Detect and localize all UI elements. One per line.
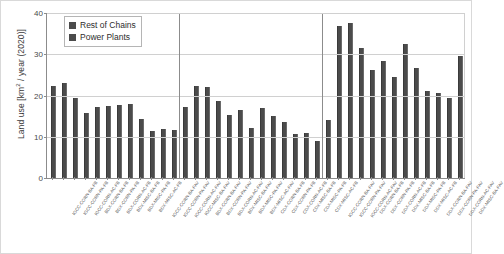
bar: [392, 77, 398, 178]
y-axis-tickmark: [44, 137, 47, 138]
x-axis-tick-labels: IGCC-CORN-BA-FBIGCC-CORN-PA-FBIGCC-CORN-…: [46, 180, 465, 254]
x-axis-tickmark: [151, 177, 152, 180]
x-axis-tickmark: [96, 177, 97, 180]
x-axis-tickmark: [437, 177, 438, 180]
bar: [216, 101, 222, 178]
bar: [370, 70, 376, 178]
chart-legend: Rest of ChainsPower Plants: [64, 16, 142, 47]
x-axis-tickmark: [217, 177, 218, 180]
x-axis-tickmark: [415, 177, 416, 180]
legend-label: Power Plants: [80, 33, 130, 42]
x-axis-tickmark: [228, 177, 229, 180]
bar: [51, 86, 57, 178]
x-axis-tickmark: [162, 177, 163, 180]
x-axis-tickmark: [327, 177, 328, 180]
y-axis-tick-labels: 010203040: [23, 13, 43, 179]
bar: [238, 110, 244, 178]
bar: [271, 116, 277, 178]
x-axis-tickmark: [272, 177, 273, 180]
bar: [414, 68, 420, 178]
x-axis-tickmark: [459, 177, 460, 180]
x-axis-tickmark: [283, 177, 284, 180]
y-axis-tick-label: 20: [23, 91, 43, 100]
legend-swatch-icon: [69, 22, 76, 29]
x-axis-tickmark: [239, 177, 240, 180]
bar: [260, 108, 266, 178]
legend-item: Rest of Chains: [69, 19, 136, 31]
x-axis-tickmark: [140, 177, 141, 180]
bar: [282, 122, 288, 179]
x-axis-tickmark: [63, 177, 64, 180]
bar: [95, 107, 101, 178]
x-axis-tickmark: [195, 177, 196, 180]
bar: [304, 133, 310, 178]
x-axis-tickmark: [74, 177, 75, 180]
bar: [326, 120, 332, 178]
bar: [73, 98, 79, 178]
legend-item: Power Plants: [69, 31, 136, 43]
bar: [425, 91, 431, 178]
bar: [139, 119, 145, 178]
x-axis-tickmark: [184, 177, 185, 180]
bar: [249, 128, 255, 178]
bar: [106, 106, 112, 178]
y-axis-tickmark: [44, 54, 47, 55]
x-axis-tickmark: [206, 177, 207, 180]
x-axis-tickmark: [305, 177, 306, 180]
x-axis-tickmark: [129, 177, 130, 180]
x-axis-tickmark: [173, 177, 174, 180]
bar: [84, 113, 90, 178]
group-separator: [322, 13, 323, 178]
x-axis-tickmark: [393, 177, 394, 180]
bar: [315, 141, 321, 178]
bar: [293, 134, 299, 178]
bar: [348, 23, 354, 178]
bar: [436, 93, 442, 178]
x-axis-tickmark: [52, 177, 53, 180]
x-axis-tickmark: [448, 177, 449, 180]
gridline: [47, 96, 465, 97]
y-axis-tickmark: [44, 178, 47, 179]
bar: [194, 86, 200, 178]
x-axis-tickmark: [382, 177, 383, 180]
bar: [117, 105, 123, 178]
x-axis-tickmark: [107, 177, 108, 180]
bar: [183, 107, 189, 178]
bar: [227, 115, 233, 178]
plot-top-border: [47, 13, 465, 14]
bar: [381, 61, 387, 178]
x-axis-tickmark: [250, 177, 251, 180]
plot-right-border: [464, 13, 465, 178]
x-axis-tickmark: [360, 177, 361, 180]
x-axis-tickmark: [338, 177, 339, 180]
x-axis-tickmark: [349, 177, 350, 180]
bar: [447, 98, 453, 178]
bar: [205, 87, 211, 178]
x-axis-tickmark: [118, 177, 119, 180]
bar: [62, 83, 68, 178]
bar: [403, 44, 409, 178]
y-axis-tickmark: [44, 96, 47, 97]
x-axis-tickmark: [316, 177, 317, 180]
bar: [337, 26, 343, 178]
y-axis-tick-label: 0: [23, 174, 43, 183]
x-axis-tickmark: [294, 177, 295, 180]
bar: [128, 104, 134, 178]
y-axis-tick-label: 30: [23, 50, 43, 59]
gridline: [47, 137, 465, 138]
x-axis-tickmark: [261, 177, 262, 180]
bar: [458, 56, 464, 178]
legend-swatch-icon: [69, 34, 76, 41]
gridline: [47, 54, 465, 55]
bar: [359, 48, 365, 178]
y-axis-tick-label: 10: [23, 132, 43, 141]
legend-label: Rest of Chains: [80, 21, 136, 30]
x-axis-tickmark: [371, 177, 372, 180]
x-axis-tickmark: [85, 177, 86, 180]
y-axis-tick-label: 40: [23, 9, 43, 18]
x-axis-tickmark: [404, 177, 405, 180]
group-separator: [179, 13, 180, 178]
x-axis-tickmark: [426, 177, 427, 180]
